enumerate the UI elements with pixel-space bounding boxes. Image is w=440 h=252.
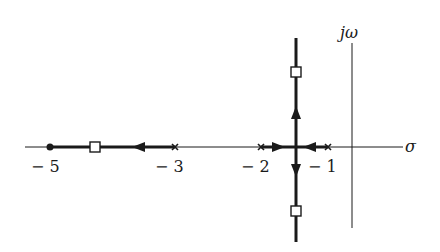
arrow-left-icon [303, 142, 316, 152]
tick-label-minus-1: − 1 [308, 157, 337, 176]
zero-marker-minus-5 [47, 144, 54, 151]
real-axis-label: σ [405, 137, 417, 156]
tick-label-minus-5: − 5 [31, 157, 60, 176]
arrow-right-icon [272, 142, 285, 152]
root-locus-diagram: − 5 − 3 − 2 − 1 σ jω [0, 0, 440, 252]
square-marker-lower [291, 206, 301, 216]
arrow-down-icon [291, 164, 301, 177]
tick-label-minus-2: − 2 [241, 157, 270, 176]
arrow-up-icon [291, 106, 301, 119]
tick-label-minus-3: − 3 [155, 157, 184, 176]
square-marker-real [90, 142, 100, 152]
arrow-left-icon [132, 142, 145, 152]
imag-axis-label: jω [337, 23, 358, 42]
square-marker-upper [291, 67, 301, 77]
